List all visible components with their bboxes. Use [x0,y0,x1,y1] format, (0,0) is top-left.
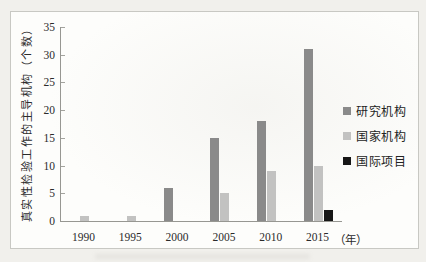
bar-slot [220,193,230,221]
bar-slot [324,210,334,221]
bar-group-1990 [61,27,108,221]
bar-groups [61,27,342,221]
legend-swatch-icon [343,157,351,165]
y-tick-label-35: 35 [11,20,55,34]
legend-label: 国际项目 [356,152,406,170]
bar-国家机构-1995 [127,216,136,222]
plot-area [60,27,342,222]
cutoff-caption-smudge [95,254,310,259]
y-tick-label-30: 30 [11,48,55,62]
legend-label: 国家机构 [356,127,406,145]
bar-研究机构-2010 [257,121,266,221]
legend-item-研究机构: 研究机构 [343,103,406,119]
x-axis-unit-label: （年） [334,231,367,247]
x-tick-label-2010: 2010 [247,231,294,243]
x-tick-label-1990: 1990 [60,231,107,243]
bar-slot [267,171,277,221]
bar-国家机构-1990 [80,216,89,222]
x-tick-label-1995: 1995 [107,231,154,243]
bar-group-1995 [108,27,155,221]
bar-group-2010 [248,27,295,221]
legend-item-国家机构: 国家机构 [343,128,406,144]
y-tick-label-25: 25 [11,75,55,89]
y-tick-label-20: 20 [11,103,55,117]
legend-swatch-icon [343,107,351,115]
y-tick-label-10: 10 [11,159,55,173]
bar-研究机构-2005 [210,138,219,221]
bar-slot [257,121,267,221]
y-tick-label-0: 0 [11,214,55,228]
bar-slot [79,216,89,222]
bar-slot [304,49,314,221]
legend-item-国际项目: 国际项目 [343,153,406,169]
bar-国家机构-2005 [220,193,229,221]
bar-研究机构-2000 [164,188,173,221]
bar-国际项目-2015 [324,210,333,221]
legend: 研究机构国家机构国际项目 [343,103,406,169]
scanned-figure-page: 真实性检验工作的主导机构（个数） 35302520151050 19901995… [0,0,426,262]
bar-slot [314,166,324,221]
x-tick-label-2005: 2005 [200,231,247,243]
bar-group-2000 [155,27,202,221]
bar-slot [210,138,220,221]
y-tick-label-5: 5 [11,186,55,200]
bar-国家机构-2010 [267,171,276,221]
x-axis-tick-labels: 199019952000200520102015 [60,231,341,243]
bar-slot [163,188,173,221]
bar-group-2005 [201,27,248,221]
bar-slot [126,216,136,222]
legend-label: 研究机构 [356,102,406,120]
y-tick-label-15: 15 [11,131,55,145]
chart-panel: 真实性检验工作的主导机构（个数） 35302520151050 19901995… [10,11,419,249]
x-tick-label-2000: 2000 [154,231,201,243]
bar-国家机构-2015 [314,166,323,221]
legend-swatch-icon [343,132,351,140]
bar-研究机构-2015 [304,49,313,221]
bar-group-2015 [295,27,342,221]
